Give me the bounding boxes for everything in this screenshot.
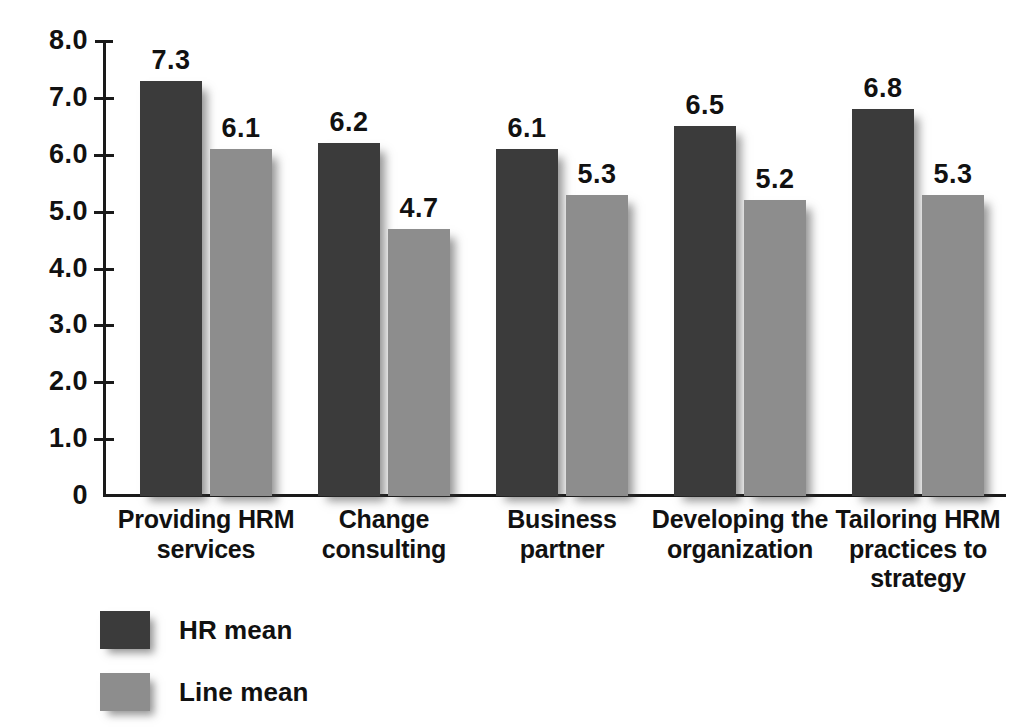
y-axis-tick-label: 1.0 <box>16 425 88 452</box>
y-axis-tick <box>94 97 114 100</box>
category-label-line: Developing the <box>640 505 840 535</box>
bar-value-label: 5.3 <box>933 161 972 188</box>
category-label-line: Tailoring HRM <box>818 505 1018 535</box>
bar-line-mean[interactable]: 6.1 <box>210 149 272 496</box>
y-axis-tick-label: 6.0 <box>16 141 88 168</box>
bar-line-mean[interactable]: 5.2 <box>744 200 806 496</box>
y-axis-tick-label: 3.0 <box>16 311 88 338</box>
category-label-line: partner <box>462 535 662 565</box>
y-axis-tick <box>94 381 114 384</box>
bar-value-label: 6.1 <box>507 115 546 142</box>
bar-line-mean[interactable]: 5.3 <box>566 195 628 496</box>
category-label-line: Providing HRM <box>106 505 306 535</box>
y-axis-tick <box>94 211 114 214</box>
bar-value-label: 6.8 <box>863 75 902 102</box>
x-axis-category-label: Businesspartner <box>462 505 662 564</box>
bar-hr-mean[interactable]: 6.1 <box>496 149 558 496</box>
y-axis-tick-label: 2.0 <box>16 368 88 395</box>
category-label-line: Business <box>462 505 662 535</box>
y-axis-tick-label: 0 <box>16 482 88 509</box>
category-label-line: practices to <box>818 535 1018 565</box>
chart-legend: HR mean Line mean <box>100 604 309 728</box>
y-axis-tick-label: 4.0 <box>16 255 88 282</box>
y-axis-tick <box>95 40 113 43</box>
legend-swatch-line-mean <box>100 673 150 711</box>
bar-line-mean[interactable]: 5.3 <box>922 195 984 496</box>
legend-item-line-mean: Line mean <box>100 666 309 718</box>
bar-value-label: 4.7 <box>399 195 438 222</box>
bar-hr-mean[interactable]: 6.2 <box>318 143 380 496</box>
bar-value-label: 6.5 <box>685 92 724 119</box>
y-axis-tick-label: 5.0 <box>16 198 88 225</box>
bar-value-label: 5.2 <box>755 166 794 193</box>
bar-hr-mean[interactable]: 7.3 <box>140 81 202 496</box>
y-axis-tick-label: 7.0 <box>16 84 88 111</box>
legend-swatch-hr-mean <box>100 611 150 649</box>
bar-line-mean[interactable]: 4.7 <box>388 229 450 496</box>
bar-value-label: 6.1 <box>221 115 260 142</box>
x-axis-category-label: Providing HRMservices <box>106 505 306 564</box>
x-axis-category-label: Developing theorganization <box>640 505 840 564</box>
bar-value-label: 5.3 <box>577 161 616 188</box>
category-label-line: services <box>106 535 306 565</box>
legend-item-hr-mean: HR mean <box>100 604 309 656</box>
y-axis-tick-label: 8.0 <box>16 27 88 54</box>
y-axis-tick <box>94 154 114 157</box>
legend-label-line-mean: Line mean <box>179 677 309 708</box>
legend-label-hr-mean: HR mean <box>179 615 292 646</box>
category-label-line: Change <box>284 505 484 535</box>
x-axis-category-label: Changeconsulting <box>284 505 484 564</box>
category-label-line: organization <box>640 535 840 565</box>
bar-value-label: 7.3 <box>151 47 190 74</box>
y-axis-tick <box>94 324 114 327</box>
x-axis-category-label: Tailoring HRMpractices tostrategy <box>818 505 1018 594</box>
bar-hr-mean[interactable]: 6.8 <box>852 109 914 496</box>
y-axis-tick <box>94 438 114 441</box>
category-label-line: consulting <box>284 535 484 565</box>
bar-hr-mean[interactable]: 6.5 <box>674 126 736 496</box>
bar-value-label: 6.2 <box>329 109 368 136</box>
y-axis-tick <box>94 268 114 271</box>
category-label-line: strategy <box>818 564 1018 594</box>
